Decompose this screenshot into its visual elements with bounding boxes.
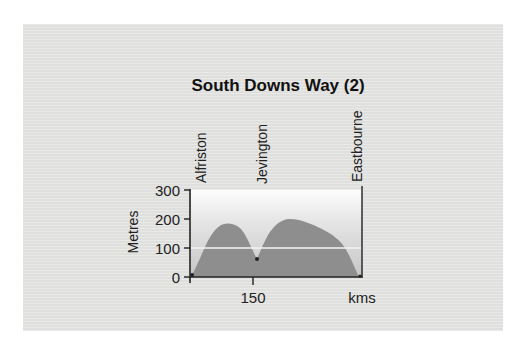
x-axis-label: kms [348,289,376,306]
jevington-marker [255,257,259,261]
ytick-300: 300 [155,182,180,199]
place-label-alfriston: Alfriston [193,132,209,183]
ytick-0: 0 [172,269,180,286]
xtick-150: 150 [240,289,265,306]
place-label-eastbourne: Eastbourne [349,110,365,182]
elevation-chart: 300 200 100 0 Metres 150 kms Alfriston J… [0,0,523,343]
y-axis-label: Metres [125,211,141,254]
ytick-200: 200 [155,211,180,228]
ytick-100: 100 [155,240,180,257]
place-label-jevington: Jevington [254,124,270,184]
